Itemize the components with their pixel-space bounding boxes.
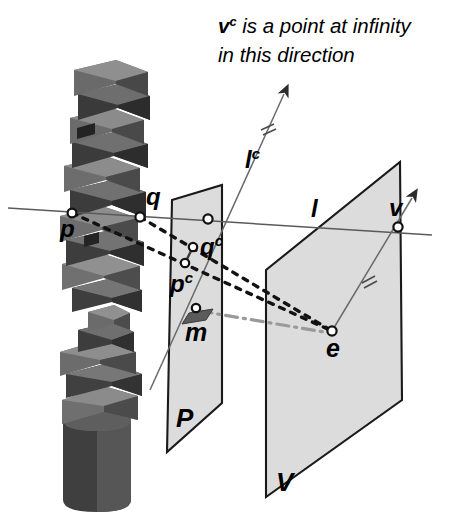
label-plane-p: P	[176, 403, 194, 433]
caption-line1-rest: is a point at infinity	[236, 14, 412, 37]
label-point-q: q	[146, 183, 161, 210]
point-marker-v[interactable]	[393, 222, 402, 231]
point-marker-qc[interactable]	[189, 243, 197, 251]
caption-line2: in this direction	[218, 43, 355, 66]
label-line-lc-sup: c	[252, 146, 261, 162]
point-marker-pc[interactable]	[181, 259, 189, 267]
label-point-qc-sup: c	[215, 233, 224, 249]
caption-line1: vc is a point at infinity	[218, 14, 413, 37]
label-point-qc-base: q	[200, 233, 215, 260]
label-plane-v: V	[276, 467, 296, 497]
point-marker-q[interactable]	[135, 212, 144, 221]
label-point-pc-base: p	[169, 270, 185, 297]
figure-container: vc is a point at infinity in this direct…	[0, 0, 456, 524]
label-point-p: p	[59, 215, 75, 242]
point-marker-m[interactable]	[192, 304, 200, 312]
label-point-v: v	[389, 194, 404, 221]
label-point-m: m	[185, 318, 207, 346]
label-point-pc-sup: c	[185, 270, 194, 286]
point-marker-l-on-p[interactable]	[203, 214, 212, 223]
diagram-svg: vc is a point at infinity in this direct…	[0, 0, 456, 524]
sculpture-base	[63, 409, 131, 512]
label-point-e: e	[326, 334, 340, 362]
caption-symbol-v-sup: c	[229, 14, 236, 29]
